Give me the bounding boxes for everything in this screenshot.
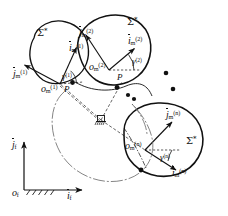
contact-point-body-n	[139, 168, 144, 173]
fixed-frame-hatching	[27, 190, 55, 195]
body-n-origin-label: om(n)	[125, 141, 142, 152]
body-n-angle-label: γ(n)	[160, 153, 170, 162]
contact-point-chain-b	[132, 97, 136, 101]
body-2-angle-label: γ(2)	[132, 57, 142, 66]
body-1-axis-j	[25, 65, 61, 84]
body-2-contact-point-label: P	[117, 73, 123, 82]
contact-point-body-2	[115, 85, 120, 90]
ellipsis-dot-2	[171, 87, 176, 92]
figure-vector-graphics	[0, 0, 228, 216]
body-1-axis-i-label: im(1)	[69, 43, 83, 54]
body-2-axis-i	[109, 49, 135, 71]
fixed-frame-axis-j-label: jf	[12, 140, 16, 151]
body-n-sigma-label: Σ*	[186, 136, 196, 146]
body-1-axis-j-label: jm(1)	[13, 69, 27, 80]
body-n-axis-j	[145, 122, 172, 150]
body-n-axis-i-label: im(n)	[172, 168, 186, 179]
ellipsis-dot-1	[164, 71, 169, 76]
ground-pivot-symbol	[95, 116, 106, 126]
body-2-axis-i-label: im(2)	[128, 36, 142, 47]
kinematics-figure: Σ* im(1) jm(1) γ(1) om(1) P Σ* jm(2) im(…	[0, 0, 228, 216]
body-1-contact-point-label: P	[64, 85, 70, 94]
fixed-frame-axis-i-label: if	[67, 191, 71, 202]
body-1-angle-label: γ(1)	[62, 72, 72, 81]
contact-point-chain-a	[126, 93, 130, 97]
body-1-sigma-label: Σ*	[37, 28, 47, 38]
central-curve	[75, 82, 152, 96]
body-2-sigma-label: Σ*	[127, 17, 137, 27]
body-1-origin-label: om(1)	[41, 84, 58, 95]
fixed-frame-origin-label: of	[12, 188, 19, 199]
body-2-axis-j-label: jm(2)	[79, 28, 93, 39]
body-2-origin-label: om(2)	[89, 62, 106, 73]
body-n-axis-j-label: jm(n)	[166, 110, 180, 121]
